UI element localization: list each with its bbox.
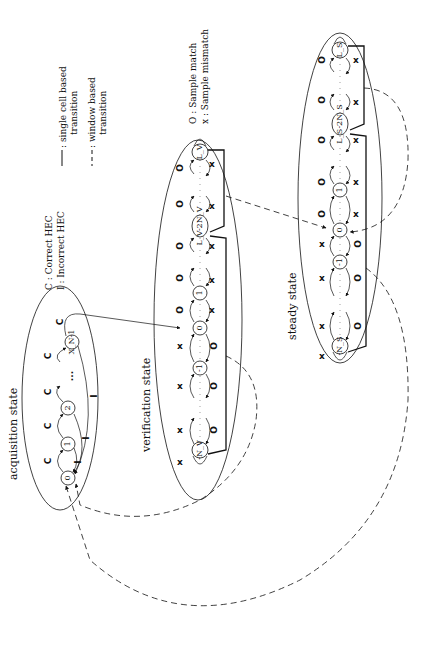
- ss-node-1-label: 1: [335, 187, 344, 192]
- svg-text:O: O: [317, 178, 327, 186]
- svg-text:x: x: [209, 275, 215, 285]
- svg-text:x: x: [353, 177, 359, 187]
- svg-text:O: O: [209, 382, 219, 390]
- legend: : single cell based transition : window …: [44, 29, 210, 290]
- svg-text:O: O: [317, 210, 327, 218]
- steady-state-label: steady state: [286, 273, 299, 340]
- svg-text:O: O: [353, 274, 363, 282]
- ver-node-lv-label: L_V: [195, 144, 204, 159]
- svg-text:x: x: [177, 457, 183, 467]
- ss-node-ls-2ns-label: L_S-2N_S: [335, 104, 344, 143]
- svg-text:O: O: [353, 322, 363, 330]
- acq-c-label: C: [43, 457, 53, 464]
- svg-text:x: x: [209, 159, 215, 169]
- acquisition-state-label: acquisition state: [7, 388, 20, 480]
- svg-text:x: x: [353, 97, 359, 107]
- ss-node-m1-label: -1: [335, 258, 344, 266]
- acq-ellipsis: ...: [65, 371, 75, 381]
- legend-mismatch: x : Sample mismatch: [200, 29, 210, 124]
- svg-text:O: O: [317, 56, 327, 64]
- state-diagram: : single cell based transition : window …: [0, 0, 429, 646]
- svg-text:x: x: [209, 201, 215, 211]
- ver-node-mnv-label: -N_V: [195, 440, 204, 460]
- acq-node-xn1-label: X_N-1: [67, 330, 76, 355]
- svg-text:x: x: [177, 381, 183, 391]
- steady-state: steady state L_S L_S-2N_S 1 0 -1 -N_S: [286, 33, 382, 363]
- window-transitions: [66, 88, 408, 606]
- legend-correct: C : Correct HEC: [44, 215, 54, 290]
- svg-text:x: x: [319, 321, 325, 331]
- acq-node-2-label: 2: [63, 405, 72, 410]
- svg-text:x: x: [319, 239, 325, 249]
- verification-state: verification state L_V L_V-2N_V 1 0 -1 -…: [140, 139, 242, 500]
- ss-node-mns-label: -N_S: [335, 336, 344, 355]
- svg-text:O: O: [353, 240, 363, 248]
- svg-text:x: x: [209, 241, 215, 251]
- ss-node-0-label: 0: [335, 227, 344, 232]
- svg-text:O: O: [317, 136, 327, 144]
- legend-single-cell-l2: transition: [69, 91, 79, 135]
- svg-text:x: x: [177, 425, 183, 435]
- legend-window-l2: transition: [98, 91, 108, 135]
- svg-text:x: x: [319, 273, 325, 283]
- legend-single-cell-l1: : single cell based: [58, 66, 68, 148]
- ver-node-lv-2nv-label: L_V-2N_V: [195, 206, 204, 245]
- svg-text:O: O: [175, 164, 185, 172]
- legend-window-l1: : window based: [87, 77, 97, 148]
- svg-text:O: O: [209, 426, 219, 434]
- acq-c-label: C: [43, 422, 53, 429]
- svg-text:O: O: [175, 242, 185, 250]
- svg-text:O: O: [317, 96, 327, 104]
- ver-node-1-label: 1: [195, 290, 204, 295]
- legend-match: O : Sample match: [188, 42, 198, 124]
- svg-text:x: x: [209, 305, 215, 315]
- acq-c-label: C: [43, 352, 53, 359]
- ver-symbols: O x O x O x O x O x x O x O x O x: [175, 159, 219, 467]
- legend-incorrect: I : Incorrect HEC: [56, 211, 66, 290]
- ss-node-ls-label: L_S: [335, 43, 344, 58]
- svg-text:O: O: [175, 200, 185, 208]
- acq-i-label: I: [73, 460, 83, 463]
- svg-text:x: x: [353, 209, 359, 219]
- svg-text:x: x: [353, 55, 359, 65]
- acq-node-1-label: 1: [63, 441, 72, 446]
- ver-node-0-label: 0: [195, 325, 204, 330]
- svg-text:x: x: [353, 135, 359, 145]
- ver-node-m1-label: -1: [195, 364, 204, 372]
- ss-symbols: O x O x O x O x O x x O x O x O x: [317, 55, 363, 361]
- svg-text:O: O: [209, 342, 219, 350]
- verification-state-label: verification state: [140, 358, 153, 453]
- svg-text:O: O: [175, 306, 185, 314]
- svg-text:x: x: [177, 341, 183, 351]
- acq-i-label: I: [81, 436, 91, 439]
- svg-text:O: O: [175, 274, 185, 282]
- acq-i-label: I: [89, 394, 99, 397]
- acq-node-0-label: 0: [63, 475, 72, 480]
- acq-c-label: C: [43, 388, 53, 395]
- svg-text:x: x: [319, 351, 325, 361]
- acq-c-exit-label: C: [55, 318, 65, 325]
